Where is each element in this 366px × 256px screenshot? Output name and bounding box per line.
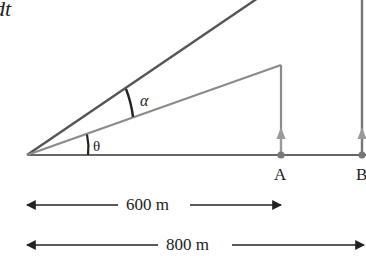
distance-600-label: 600 m: [126, 195, 169, 214]
point-a-dot: [277, 151, 284, 158]
alpha-label: α: [140, 92, 149, 109]
arrow-up-icon: [358, 127, 366, 139]
arrow-up-icon: [277, 127, 286, 139]
point-b-label: B: [356, 165, 366, 184]
trig-diagram: dt · θ α A B 600 m 800 m: [0, 0, 366, 256]
upper-sight-line: [27, 0, 258, 155]
alpha-arc: [126, 89, 133, 117]
theta-label: θ: [93, 138, 100, 154]
point-a-label: A: [274, 165, 287, 184]
distance-800-label: 800 m: [166, 235, 209, 254]
point-b-dot: [358, 151, 365, 158]
fragment-dot: ·: [42, 0, 48, 8]
theta-arc: [87, 135, 88, 156]
lower-sight-line: [27, 65, 281, 155]
fragment-text: dt: [0, 0, 12, 21]
